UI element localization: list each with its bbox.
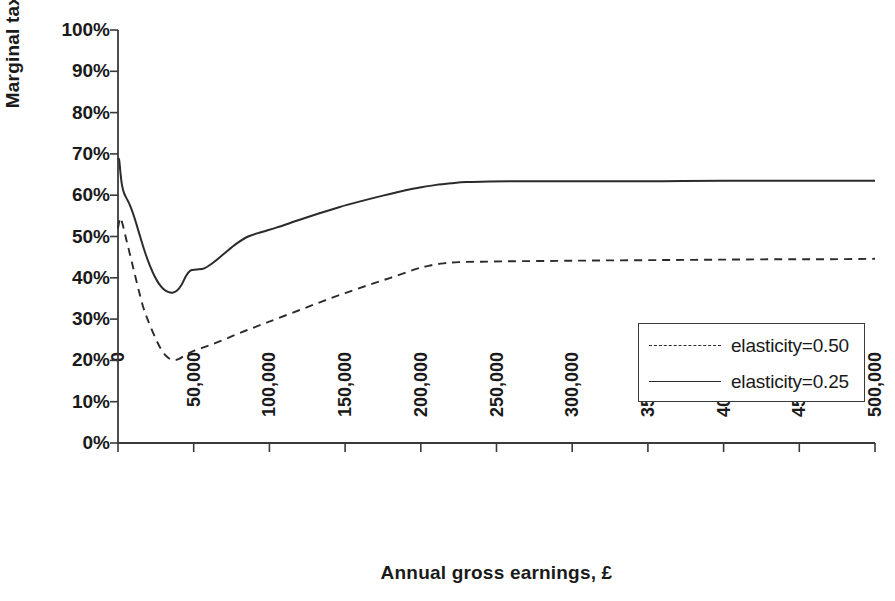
- legend-label-elasticity-050: elasticity=0.50: [731, 335, 849, 357]
- series-line-elasticity-025: [118, 158, 875, 293]
- legend-entry-elasticity-025: elasticity=0.25: [639, 362, 864, 401]
- legend-label-elasticity-025: elasticity=0.25: [731, 371, 849, 393]
- legend-swatch-dashed-line: [649, 338, 721, 354]
- chart-figure: Marginal tax rate Annual gross earnings,…: [0, 0, 895, 601]
- legend-swatch-solid-line: [649, 374, 721, 390]
- legend-entry-elasticity-050: elasticity=0.50: [639, 326, 864, 365]
- chart-legend: elasticity=0.50 elasticity=0.25: [638, 323, 865, 402]
- plot-area: [0, 0, 895, 601]
